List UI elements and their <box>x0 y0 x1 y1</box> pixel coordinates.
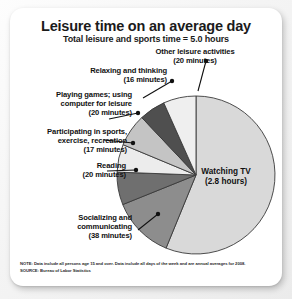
footnote-note: NOTE: Data include all persons age 15 an… <box>20 261 245 266</box>
callout-reading: Reading (20 minutes) <box>32 161 126 179</box>
callout-relaxing-and-thinking: Relaxing and thinking (16 minutes) <box>52 66 167 84</box>
leader-dot-playing-games <box>136 111 140 115</box>
leader-dot-socializing <box>156 212 160 216</box>
callout-other-leisure-activities: Other leisure activities (20 minutes) <box>128 47 262 65</box>
leader-dot-sports <box>131 141 135 145</box>
callout-playing-games: Playing games; using computer for leisur… <box>18 90 132 118</box>
leader-dot-relaxing <box>170 79 174 83</box>
footnote-source: SOURCE: Bureau of Labor Statistics <box>20 268 91 273</box>
callout-participating-in-sports: Participating in sports, exercise, recre… <box>12 127 127 155</box>
chart-card: Leisure time on an average day Total lei… <box>10 8 282 286</box>
leader-line-other-leisure <box>198 61 206 91</box>
leader-dot-reading <box>134 168 138 172</box>
callout-socializing-and-communicating: Socializing and communicating (38 minute… <box>28 213 132 241</box>
callout-watching-tv: Watching TV (2.8 hours) <box>184 167 268 187</box>
